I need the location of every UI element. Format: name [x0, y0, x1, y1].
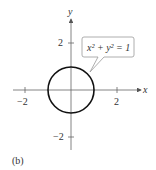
graph: x² + y² = 1 x y −2 2 2 −2 (b) — [0, 0, 156, 170]
x-tick-label-neg: −2 — [17, 96, 28, 107]
y-tick-label-neg: −2 — [53, 131, 64, 142]
x-axis-label: x — [142, 84, 148, 95]
y-axis-label: y — [67, 6, 73, 17]
callout-text: x² + y² = 1 — [86, 42, 130, 53]
figure-label: (b) — [12, 155, 24, 167]
x-tick-label-pos: 2 — [114, 96, 119, 107]
y-tick-label-pos: 2 — [58, 37, 63, 48]
